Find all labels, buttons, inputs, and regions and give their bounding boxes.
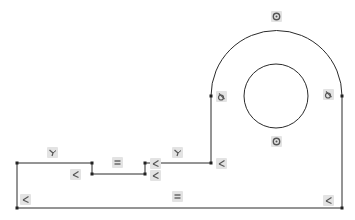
sketch-point[interactable] — [341, 207, 344, 210]
equal-icon[interactable] — [172, 191, 183, 202]
sketch-point[interactable] — [91, 173, 94, 176]
sketch-point[interactable] — [210, 162, 213, 165]
sketch-point[interactable] — [16, 162, 19, 165]
vertical-icon[interactable] — [150, 170, 161, 181]
horizontal-icon[interactable] — [47, 147, 58, 158]
sketch-point[interactable] — [210, 95, 213, 98]
vertical-icon[interactable] — [70, 169, 81, 180]
horizontal-icon[interactable] — [172, 147, 183, 158]
vertical-icon[interactable] — [216, 158, 227, 169]
equal-icon[interactable] — [112, 157, 123, 168]
vertical-icon[interactable] — [20, 194, 31, 205]
concentric-icon[interactable] — [271, 11, 282, 22]
sketch-point[interactable] — [144, 173, 147, 176]
tangent-icon[interactable] — [216, 91, 227, 102]
sketch-canvas[interactable] — [0, 0, 355, 220]
tangent-icon[interactable] — [323, 89, 334, 100]
sketch-point[interactable] — [16, 207, 19, 210]
vertical-icon[interactable] — [150, 158, 161, 169]
inner-circle[interactable] — [244, 64, 308, 128]
vertical-icon[interactable] — [323, 195, 334, 206]
concentric-icon[interactable] — [271, 136, 282, 147]
outer-arc[interactable] — [211, 31, 342, 97]
sketch-point[interactable] — [91, 162, 94, 165]
sketch-point[interactable] — [144, 162, 147, 165]
sketch-point[interactable] — [341, 95, 344, 98]
